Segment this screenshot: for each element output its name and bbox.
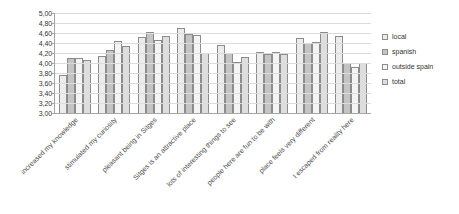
y-axis-tick-label: 4,80 bbox=[39, 20, 52, 27]
bar bbox=[335, 36, 343, 114]
bar bbox=[296, 38, 304, 113]
bar bbox=[83, 60, 91, 113]
legend-item: outside spain bbox=[382, 60, 458, 73]
bar bbox=[241, 57, 249, 113]
bar bbox=[193, 35, 201, 113]
legend-swatch-icon bbox=[382, 79, 388, 85]
bar bbox=[343, 63, 351, 113]
y-axis-tick bbox=[52, 33, 55, 34]
legend-swatch-icon bbox=[382, 64, 388, 70]
y-axis-tick-label: 4,40 bbox=[39, 40, 52, 47]
y-axis: 5,004,804,604,404,204,003,803,603,403,20… bbox=[26, 8, 52, 118]
chart-legend: localspanishoutside spaintotal bbox=[382, 30, 458, 90]
y-axis-tick bbox=[52, 103, 55, 104]
y-axis-tick-label: 3,80 bbox=[39, 70, 52, 77]
y-axis-tick-label: 5,00 bbox=[39, 10, 52, 17]
bar bbox=[67, 58, 75, 113]
bar bbox=[98, 56, 106, 114]
y-axis-tick-label: 4,20 bbox=[39, 50, 52, 57]
gridline bbox=[55, 33, 371, 34]
legend-item: local bbox=[382, 30, 458, 43]
gridline bbox=[55, 13, 371, 14]
y-axis-tick-label: 4,00 bbox=[39, 60, 52, 67]
bar bbox=[75, 58, 83, 113]
y-axis-tick bbox=[52, 83, 55, 84]
gridline bbox=[55, 73, 371, 74]
legend-item: total bbox=[382, 75, 458, 88]
x-axis-label-text: lots of interesting things to see bbox=[165, 116, 237, 188]
y-axis-tick-label: 3,40 bbox=[39, 90, 52, 97]
y-axis-tick bbox=[52, 13, 55, 14]
bar bbox=[162, 36, 170, 114]
gridline bbox=[55, 83, 371, 84]
y-axis-tick-label: 3,20 bbox=[39, 100, 52, 107]
gridline bbox=[55, 23, 371, 24]
y-axis-tick-label: 3,60 bbox=[39, 80, 52, 87]
y-axis-tick bbox=[52, 73, 55, 74]
x-axis-label-text: people here are fun to be with bbox=[206, 116, 276, 186]
y-axis-tick bbox=[52, 23, 55, 24]
gridline bbox=[55, 103, 371, 104]
plot-area bbox=[54, 13, 371, 114]
y-axis-tick-label: 4,60 bbox=[39, 30, 52, 37]
bar bbox=[233, 62, 241, 113]
legend-label: outside spain bbox=[392, 63, 433, 70]
legend-label: total bbox=[392, 78, 405, 85]
bar bbox=[154, 40, 162, 114]
gridline bbox=[55, 63, 371, 64]
bar bbox=[177, 28, 185, 113]
bar-chart: 5,004,804,604,404,204,003,803,603,403,20… bbox=[0, 0, 459, 214]
y-axis-tick bbox=[52, 43, 55, 44]
bar bbox=[138, 37, 146, 113]
y-axis-tick bbox=[52, 93, 55, 94]
bar bbox=[59, 75, 67, 113]
legend-swatch-icon bbox=[382, 34, 388, 40]
legend-label: local bbox=[392, 33, 406, 40]
y-axis-tick-label: 3,00 bbox=[39, 110, 52, 117]
gridline bbox=[55, 43, 371, 44]
legend-label: spanish bbox=[392, 48, 416, 55]
bar bbox=[359, 63, 367, 113]
legend-swatch-icon bbox=[382, 49, 388, 55]
gridline bbox=[55, 93, 371, 94]
gridline bbox=[55, 53, 371, 54]
x-axis-labels: increased my knowledgestimulated my curi… bbox=[54, 114, 370, 214]
y-axis-tick bbox=[52, 63, 55, 64]
y-axis-tick bbox=[52, 53, 55, 54]
legend-item: spanish bbox=[382, 45, 458, 58]
